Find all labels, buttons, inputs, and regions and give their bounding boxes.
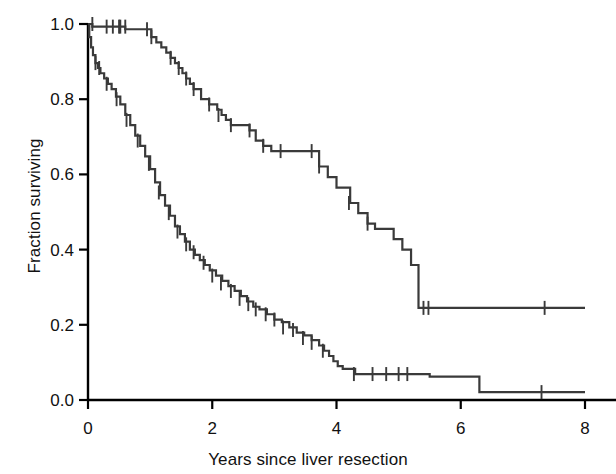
axis-layer	[79, 24, 616, 409]
x-tick-label-6: 6	[456, 419, 465, 438]
curve-layer	[88, 17, 585, 399]
x-tick-label-0: 0	[83, 419, 92, 438]
x-tick-label-4: 4	[332, 419, 341, 438]
y-tick-label-0.0: 0.0	[50, 391, 74, 410]
x-tick-label-8: 8	[580, 419, 589, 438]
x-axis-title: Years since liver resection	[0, 450, 616, 470]
y-tick-label-0.4: 0.4	[50, 241, 74, 260]
y-tick-label-0.6: 0.6	[50, 165, 74, 184]
y-tick-label-1.0: 1.0	[50, 15, 74, 34]
y-axis-title: Fraction surviving	[25, 86, 45, 326]
survival-plot-svg: 0.00.20.40.60.81.002468	[0, 0, 616, 474]
y-tick-label-0.2: 0.2	[50, 316, 74, 335]
tick-label-layer: 0.00.20.40.60.81.002468	[50, 15, 589, 438]
kaplan-meier-figure: 0.00.20.40.60.81.002468 Fraction survivi…	[0, 0, 616, 474]
x-tick-label-2: 2	[208, 419, 217, 438]
y-tick-label-0.8: 0.8	[50, 90, 74, 109]
survival-step-line-upper-curve	[88, 24, 585, 308]
survival-step-line-lower-curve	[88, 24, 585, 392]
